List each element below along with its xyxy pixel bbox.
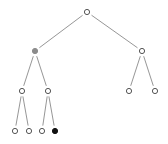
- tree-node-r: [139, 48, 144, 53]
- tree-edge: [37, 56, 47, 86]
- tree-node-l-gray: [32, 48, 37, 53]
- tree-nodes: [12, 9, 157, 133]
- tree-node-lr: [45, 88, 50, 93]
- tree-node-lrl: [39, 128, 44, 133]
- tree-node-root: [84, 9, 89, 14]
- tree-edge: [16, 96, 21, 125]
- tree-edge: [23, 96, 28, 125]
- tree-edge: [92, 15, 138, 48]
- tree-diagram: [0, 0, 168, 144]
- tree-node-rr: [152, 88, 157, 93]
- tree-node-lll: [12, 128, 17, 133]
- tree-node-rl: [126, 88, 131, 93]
- tree-edge: [49, 96, 54, 125]
- tree-edge: [24, 56, 34, 86]
- tree-node-ll: [19, 88, 24, 93]
- tree-edge: [144, 56, 154, 86]
- tree-node-llr: [26, 128, 31, 133]
- tree-edge: [43, 96, 47, 125]
- tree-edge: [131, 56, 141, 86]
- tree-edges: [16, 15, 153, 125]
- tree-edge: [39, 15, 82, 47]
- tree-node-lrr-black: [52, 128, 57, 133]
